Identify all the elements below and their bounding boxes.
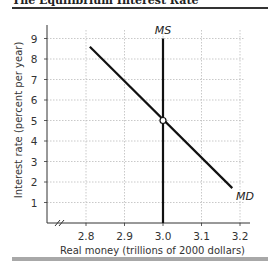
- x-tick-label: 3.1: [193, 230, 210, 242]
- y-tick-label: 3: [31, 156, 38, 168]
- y-tick-label: 1: [31, 197, 38, 209]
- equilibrium-point: [160, 118, 166, 124]
- x-tick-label: 2.8: [78, 230, 95, 242]
- y-tick-label: 4: [31, 135, 38, 147]
- md-curve: [90, 47, 232, 188]
- x-tick-label: 2.9: [116, 230, 133, 242]
- y-tick-label: 2: [31, 176, 38, 188]
- x-tick-label: 3.2: [232, 230, 249, 242]
- y-tick-label: 8: [31, 53, 38, 65]
- ms-label: MS: [155, 24, 171, 37]
- y-axis-title: Interest rate (percent per year): [13, 42, 24, 199]
- y-tick-label: 9: [31, 33, 38, 45]
- equilibrium-chart: 1234567892.82.93.03.13.2Interest rate (p…: [0, 0, 268, 267]
- x-axis-title: Real money (trillions of 2000 dollars): [60, 245, 245, 256]
- bottom-divider: [12, 257, 268, 261]
- x-tick-label: 3.0: [155, 230, 172, 242]
- md-label: MD: [236, 190, 254, 203]
- y-tick-label: 6: [31, 94, 38, 106]
- y-tick-label: 7: [31, 74, 38, 86]
- y-tick-label: 5: [31, 115, 38, 127]
